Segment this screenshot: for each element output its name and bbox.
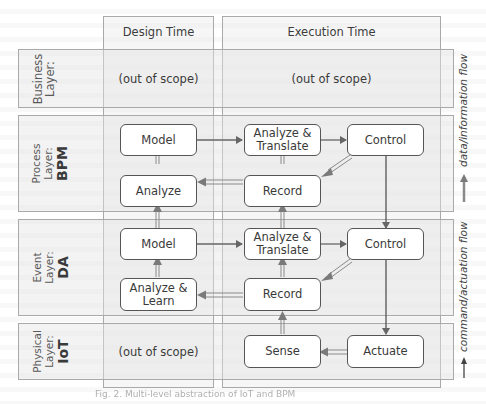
da-control-box: Control: [347, 228, 424, 260]
iot-actuate-box: Actuate: [347, 335, 424, 368]
da-record-box: Record: [244, 278, 321, 311]
bpm-analyze-box: Analyze: [120, 175, 197, 207]
bpm-analyze-translate-box: Analyze & Translate: [244, 124, 321, 156]
iot-sense-box: Sense: [244, 335, 321, 368]
figure-caption: Fig. 2. Multi-level abstraction of IoT a…: [95, 389, 395, 399]
bpm-control-box: Control: [347, 124, 424, 156]
data-flow-legend: data/information flow: [457, 54, 469, 167]
da-analyze-learn-box: Analyze & Learn: [120, 278, 197, 311]
bpm-model-box: Model: [120, 124, 197, 156]
da-analyze-translate-box: Analyze & Translate: [244, 228, 321, 260]
command-flow-legend: command/actuation flow: [457, 221, 469, 352]
bpm-record-box: Record: [244, 175, 321, 207]
da-model-box: Model: [120, 228, 197, 260]
